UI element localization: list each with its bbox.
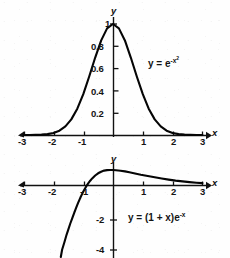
- exponential-equation-label: y = (1 + x)e-x: [128, 212, 185, 223]
- y-axis-name: y: [111, 5, 116, 16]
- gaussian-equation-label: y = e-x2: [148, 58, 179, 69]
- y-ticklabel-0-6: 0.6: [91, 63, 104, 74]
- exponential-equation-lhs: y = (1 + x)e: [128, 212, 180, 223]
- x-ticklabel-1: 1: [141, 186, 146, 197]
- chart-panel-gaussian: -3 -2 -1 1 2 3 0.2 0.4 0.6 0.8 1 x y y =…: [0, 0, 230, 150]
- x-ticklabel-3: 3: [200, 136, 205, 147]
- x-axis-name: x: [212, 127, 217, 138]
- exponential-equation-exponent: -x: [180, 211, 186, 218]
- x-ticklabel-2: 2: [171, 136, 176, 147]
- gaussian-equation-lhs: y = e: [148, 58, 171, 69]
- gaussian-equation-exponent: -x2: [171, 57, 180, 64]
- chart-panel-exponential: -3 -2 -1 1 2 3 -2 -4 x y y = (1 + x)e-x: [0, 150, 230, 258]
- y-ticklabel-neg4: -4: [96, 244, 104, 255]
- x-ticklabel-neg1: -1: [78, 136, 86, 147]
- y-ticklabel-0-4: 0.4: [91, 86, 104, 97]
- figure-container: -3 -2 -1 1 2 3 0.2 0.4 0.6 0.8 1 x y y =…: [0, 0, 230, 258]
- x-ticklabel-neg2: -2: [48, 136, 56, 147]
- x-ticklabel-neg3: -3: [18, 186, 26, 197]
- y-axis-name: y: [111, 153, 116, 164]
- exponential-chart-svg: [0, 150, 230, 258]
- x-ticklabel-neg1: -1: [80, 186, 88, 197]
- x-axis-name: x: [212, 177, 217, 188]
- x-ticklabel-1: 1: [141, 136, 146, 147]
- x-ticklabel-neg2: -2: [48, 186, 56, 197]
- y-ticklabel-0-2: 0.2: [91, 108, 104, 119]
- gaussian-chart-svg: [0, 0, 230, 150]
- y-ticklabel-1: 1: [105, 18, 110, 29]
- y-ticklabel-0-8: 0.8: [91, 41, 104, 52]
- x-ticklabel-3: 3: [200, 186, 205, 197]
- x-ticklabel-neg3: -3: [18, 136, 26, 147]
- y-ticklabel-neg2: -2: [96, 214, 104, 225]
- gaussian-exp-power: 2: [176, 55, 179, 61]
- x-ticklabel-2: 2: [171, 186, 176, 197]
